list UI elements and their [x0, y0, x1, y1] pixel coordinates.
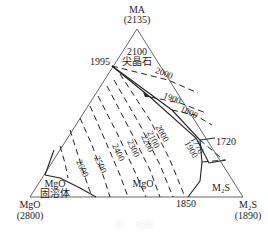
mgo-region-label: MgO: [128, 178, 158, 189]
point-1720: 1720: [214, 136, 238, 147]
vertex-bottom-left-label: MgO: [12, 199, 48, 210]
figure-caption: 图 ... 相图: [0, 218, 268, 233]
point-1995: 1995: [88, 56, 112, 67]
vertex-top-temp: (2135): [118, 14, 156, 25]
m2s-region-label: M₂S: [208, 182, 234, 193]
vertex-bottom-right-label: M₂S: [233, 199, 263, 210]
mgo-ss-label-2: 固溶体: [38, 188, 72, 199]
point-1850: 1850: [174, 198, 198, 209]
spinel-region-label: 尖晶石: [118, 56, 156, 67]
